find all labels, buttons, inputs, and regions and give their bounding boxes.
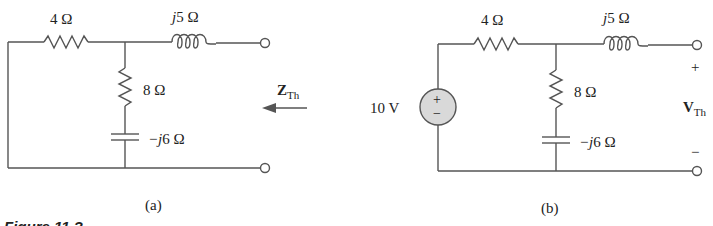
inductor-j5-icon [172, 35, 216, 49]
label-neg-j6: −j6 Ω [148, 131, 185, 147]
panel-b: + − 10 V 4 Ω j5 Ω 8 Ω −j6 Ω + VTh − (b) [370, 10, 707, 217]
circuit-figure: 4 Ω j5 Ω 8 Ω −j6 Ω ZTh (a) + − 10 V [0, 0, 713, 226]
terminal-bottom-icon [261, 164, 270, 173]
label-4ohm: 4 Ω [481, 12, 503, 28]
label-j5: j5 Ω [601, 10, 630, 26]
panel-a-label: (a) [145, 197, 162, 214]
source-minus: − [433, 106, 441, 121]
vth-minus: − [691, 144, 699, 160]
label-4ohm: 4 Ω [50, 11, 72, 27]
resistor-4ohm-icon [474, 38, 518, 50]
inductor-j5-icon [604, 37, 648, 51]
label-8ohm: 8 Ω [143, 82, 165, 98]
source-plus: + [433, 92, 441, 107]
label-j5: j5 Ω [170, 9, 199, 25]
figure-caption: Figure 11.? [4, 218, 83, 226]
panel-b-label: (b) [541, 200, 559, 217]
panel-a: 4 Ω j5 Ω 8 Ω −j6 Ω ZTh (a) [8, 9, 307, 214]
terminal-top-icon [693, 41, 702, 50]
terminal-bottom-icon [693, 167, 702, 176]
label-8ohm: 8 Ω [574, 84, 596, 100]
arrowhead-icon [262, 103, 276, 113]
resistor-4ohm-icon [44, 36, 88, 48]
resistor-8ohm-icon [550, 70, 562, 108]
resistor-8ohm-icon [119, 68, 131, 106]
label-zth: ZTh [277, 82, 300, 101]
label-neg-j6: −j6 Ω [579, 134, 616, 150]
vth-plus: + [691, 59, 699, 75]
terminal-top-icon [261, 39, 270, 48]
label-10v: 10 V [370, 100, 399, 116]
label-vth: VTh [683, 99, 707, 118]
